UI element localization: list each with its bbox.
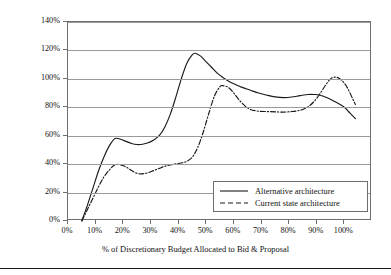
y-tick-mark-60% [63, 135, 67, 136]
x-tick-mark-100% [343, 220, 344, 224]
legend-label-current-state-architecture: Current state architecture [255, 199, 340, 208]
y-tick-label-120%: 120% [26, 45, 60, 53]
y-tick-label-80%: 80% [26, 102, 60, 110]
y-tick-mark-140% [63, 21, 67, 22]
gridline-140 [68, 22, 370, 23]
legend-item-current-state-architecture: Current state architecture [219, 197, 362, 209]
y-tick-mark-20% [63, 192, 67, 193]
x-tick-mark-50% [205, 220, 206, 224]
gridline-80 [68, 107, 370, 108]
y-tick-label-60%: 60% [26, 131, 60, 139]
y-tick-mark-120% [63, 49, 67, 50]
chart-figure: Normalized Expected Profits 0%20%40%60%8… [0, 0, 391, 275]
x-axis-title: % of Discretionary Budget Allocated to B… [0, 245, 391, 254]
y-tick-label-20%: 20% [26, 188, 60, 196]
x-tick-mark-80% [288, 220, 289, 224]
legend-solid-line-icon [219, 187, 249, 195]
gridline-40 [68, 164, 370, 165]
y-tick-label-140%: 140% [26, 17, 60, 25]
gridline-120 [68, 50, 370, 51]
x-tick-mark-70% [261, 220, 262, 224]
x-tick-mark-90% [316, 220, 317, 224]
x-tick-mark-20% [122, 220, 123, 224]
x-tick-mark-0% [67, 220, 68, 224]
gridline-60 [68, 136, 370, 137]
chart-legend: Alternative architecture Current state a… [213, 181, 368, 212]
legend-label-alternative-architecture: Alternative architecture [255, 187, 334, 196]
x-tick-mark-10% [95, 220, 96, 224]
y-tick-mark-80% [63, 106, 67, 107]
y-tick-label-40%: 40% [26, 159, 60, 167]
legend-dashed-line-icon [219, 199, 249, 207]
x-tick-label-100%: 100% [326, 227, 360, 235]
y-tick-label-100%: 100% [26, 74, 60, 82]
gridline-100 [68, 79, 370, 80]
y-tick-mark-40% [63, 163, 67, 164]
x-tick-mark-30% [150, 220, 151, 224]
y-tick-mark-100% [63, 78, 67, 79]
x-tick-mark-40% [178, 220, 179, 224]
legend-item-alternative-architecture: Alternative architecture [219, 185, 362, 197]
y-tick-label-0%: 0% [26, 216, 60, 224]
x-tick-mark-60% [233, 220, 234, 224]
bottom-divider [0, 268, 391, 269]
